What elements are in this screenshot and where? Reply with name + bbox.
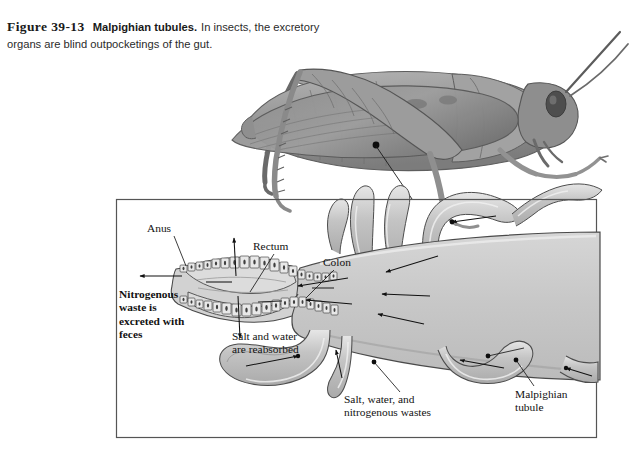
- label-salt-water-nitrogenous-wastes: Salt, water, and nitrogenous wastes: [344, 393, 431, 420]
- leader-anus: [174, 236, 186, 266]
- leader-dot-abdomen: [373, 142, 380, 149]
- label-salt-water-reabsorbed: Salt and water are reabsorbed: [232, 330, 299, 357]
- arrow-tubule-upper-right: [452, 216, 496, 222]
- label-anus: Anus: [147, 222, 171, 235]
- label-colon: Colon: [323, 256, 351, 269]
- leader-salt-water-nitrogenous: [374, 362, 400, 392]
- label-rectum: Rectum: [253, 240, 288, 253]
- label-malpighian-tubule: Malpighian tubule: [515, 388, 568, 415]
- label-nitrogenous-waste: Nitrogenous waste is excreted with feces: [119, 288, 184, 342]
